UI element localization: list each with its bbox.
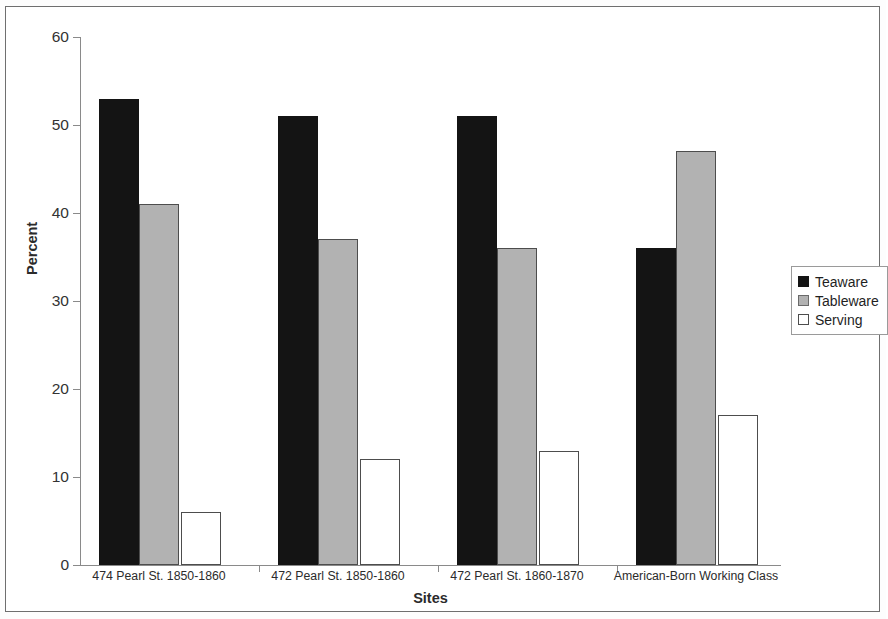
bar-teaware [457,116,497,565]
x-tick-mark [438,565,439,572]
legend-item-tableware: Tableware [798,291,879,310]
y-tick-mark [73,565,80,566]
bar-group [636,37,758,565]
x-category-label: 474 Pearl St. 1850-1860 [92,569,225,583]
legend-swatch-serving [798,314,809,325]
x-category-label: American-Born Working Class [614,569,778,583]
x-axis-title: Sites [6,590,855,606]
legend-swatch-teaware [798,276,809,287]
y-tick-mark [73,301,80,302]
y-tick-mark [73,37,80,38]
bar-tableware [318,239,358,565]
plot-area: 0102030405060 [80,37,781,565]
x-tick-mark [259,565,260,572]
x-axis-line [80,565,781,566]
legend-item-serving: Serving [798,310,879,329]
legend-label: Serving [815,312,862,328]
legend-label: Teaware [815,274,868,290]
legend: TeawareTablewareServing [791,266,888,335]
bar-serving [539,451,579,565]
y-tick-label: 0 [60,554,69,576]
bar-tableware [676,151,716,565]
bar-serving [360,459,400,565]
bar-teaware [278,116,318,565]
bar-group [457,37,579,565]
x-category-label: 472 Pearl St. 1860-1870 [450,569,583,583]
y-tick-label: 20 [52,378,69,400]
y-tick-label: 60 [52,26,69,48]
y-tick-label: 40 [52,202,69,224]
y-tick-label: 10 [52,466,69,488]
y-tick-mark [73,389,80,390]
legend-swatch-tableware [798,295,809,306]
bar-teaware [636,248,676,565]
bar-tableware [497,248,537,565]
bar-teaware [99,99,139,565]
x-category-label: 472 Pearl St. 1850-1860 [271,569,404,583]
y-axis-title: Percent [24,222,40,275]
y-tick-label: 50 [52,114,69,136]
y-tick-mark [73,477,80,478]
y-tick-mark [73,213,80,214]
figure-frame: Percent Sites 0102030405060 474 Pearl St… [5,6,880,612]
bar-serving [181,512,221,565]
bar-tableware [139,204,179,565]
bar-group [278,37,400,565]
y-tick-mark [73,125,80,126]
legend-item-teaware: Teaware [798,272,879,291]
bar-group [99,37,221,565]
y-tick-label: 30 [52,290,69,312]
bar-serving [718,415,758,565]
y-axis-line [80,37,81,565]
legend-label: Tableware [815,293,879,309]
